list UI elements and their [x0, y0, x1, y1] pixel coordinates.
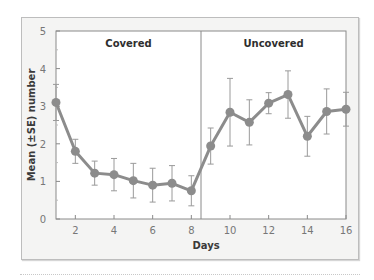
- data-point: [52, 98, 61, 107]
- data-point: [71, 147, 80, 156]
- line-chart: 012345246810121416 Covered Uncovered Day…: [0, 0, 374, 280]
- data-point: [90, 169, 99, 178]
- x-tick-label: 8: [188, 225, 194, 236]
- x-tick-label: 16: [340, 225, 353, 236]
- y-axis-title: Mean (±SE) number: [26, 69, 37, 182]
- x-tick-label: 4: [111, 225, 117, 236]
- data-point: [342, 105, 351, 114]
- data-point: [322, 107, 331, 116]
- data-point: [264, 99, 273, 108]
- y-tick-label: 2: [40, 139, 46, 150]
- data-point: [168, 179, 177, 188]
- y-tick-label: 0: [40, 214, 46, 225]
- y-tick-label: 1: [40, 176, 46, 187]
- y-tick-label: 3: [40, 101, 46, 112]
- panel-label-covered: Covered: [105, 38, 151, 49]
- data-point: [129, 176, 138, 185]
- x-tick-label: 6: [149, 225, 155, 236]
- x-tick-label: 12: [262, 225, 275, 236]
- data-point: [148, 181, 157, 190]
- data-point: [206, 142, 215, 151]
- data-point: [110, 170, 119, 179]
- x-tick-label: 10: [224, 225, 237, 236]
- chart-marks: 012345246810121416: [40, 26, 353, 236]
- data-point: [226, 108, 235, 117]
- data-point: [245, 118, 254, 127]
- data-point: [187, 186, 196, 195]
- data-point: [303, 132, 312, 141]
- x-tick-label: 14: [301, 225, 314, 236]
- y-tick-label: 4: [40, 64, 46, 75]
- panel-label-uncovered: Uncovered: [243, 38, 303, 49]
- y-tick-label: 5: [40, 26, 46, 37]
- x-axis-title: Days: [192, 240, 219, 251]
- data-point: [284, 90, 293, 99]
- x-tick-label: 2: [72, 225, 78, 236]
